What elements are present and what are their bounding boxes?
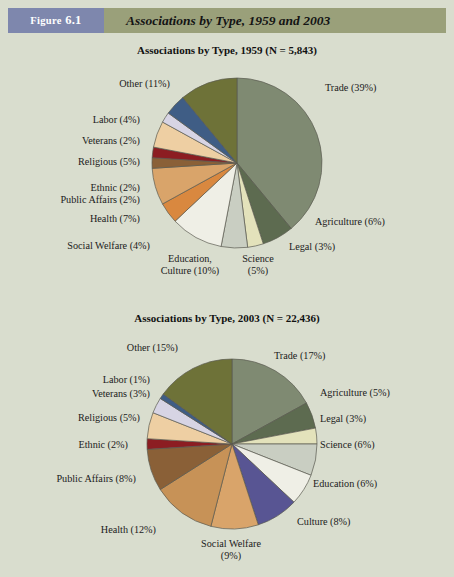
pie-2-label-education: Education (6%)	[313, 478, 377, 490]
pie-1-label-education-line2: Culture (10%)	[150, 265, 230, 277]
figure-title: Associations by Type, 1959 and 2003	[104, 8, 446, 33]
pie-1-label-labor: Labor (4%)	[8, 114, 140, 126]
figure-number-tag: Figure 6.1	[8, 8, 104, 33]
pie-1-label-education-line1: Education,	[150, 253, 230, 265]
pie-chart-2-slices	[147, 359, 317, 529]
pie-2-label-culture: Culture (8%)	[297, 516, 350, 528]
pie-1-label-health: Health (7%)	[8, 213, 140, 225]
pie-1-label-agriculture: Agriculture (6%)	[315, 216, 385, 228]
figure-word: Figure	[30, 15, 61, 26]
pie-2-label-agriculture: Agriculture (5%)	[320, 387, 390, 399]
pie-chart-1-slices	[152, 78, 322, 248]
pie-2-label-other: Other (15%)	[8, 342, 178, 354]
pie-1-label-science-line2: (5%)	[232, 265, 284, 277]
pie-1-label-trade: Trade (39%)	[325, 82, 376, 94]
pie-1-label-legal: Legal (3%)	[289, 241, 335, 253]
pie-2-label-science: Science (6%)	[320, 439, 375, 451]
pie-1-label-science-line1: Science	[232, 253, 284, 265]
pie-1-label-public-affairs: Public Affairs (2%)	[8, 194, 140, 206]
pie-2-label-legal: Legal (3%)	[320, 413, 366, 425]
chart-2-title: Associations by Type, 2003 (N = 22,436)	[0, 312, 454, 324]
pie-1-label-ethnic: Ethnic (2%)	[8, 182, 140, 194]
pie-2-label-ethnic: Ethnic (2%)	[8, 439, 128, 451]
pie-2-label-religious: Religious (5%)	[8, 412, 140, 424]
figure-page: Figure 6.1 Associations by Type, 1959 an…	[0, 0, 454, 577]
pie-2-label-veterans: Veterans (3%)	[8, 388, 150, 400]
pie-1-label-veterans: Veterans (2%)	[8, 135, 140, 147]
pie-2-label-labor: Labor (1%)	[8, 374, 150, 386]
pie-2-label-public-affairs: Public Affairs (8%)	[8, 473, 136, 485]
pie-chart-1: Trade (39%) Agriculture (6%) Legal (3%) …	[0, 58, 454, 308]
figure-number: 6.1	[65, 13, 82, 28]
chart-1-title: Associations by Type, 1959 (N = 5,843)	[0, 44, 454, 56]
figure-header-bar: Figure 6.1 Associations by Type, 1959 an…	[8, 8, 446, 33]
pie-2-label-social-welfare-line1: Social Welfare	[181, 538, 281, 550]
pie-2-label-health: Health (12%)	[8, 524, 156, 536]
pie-1-label-religious: Religious (5%)	[8, 156, 140, 168]
pie-2-label-social-welfare-line2: (9%)	[181, 550, 281, 562]
pie-1-label-other: Other (11%)	[8, 78, 170, 90]
pie-chart-2: Trade (17%) Agriculture (5%) Legal (3%) …	[0, 326, 454, 576]
pie-2-label-trade: Trade (17%)	[274, 350, 325, 362]
pie-1-label-social-welfare: Social Welfare (4%)	[8, 240, 150, 252]
